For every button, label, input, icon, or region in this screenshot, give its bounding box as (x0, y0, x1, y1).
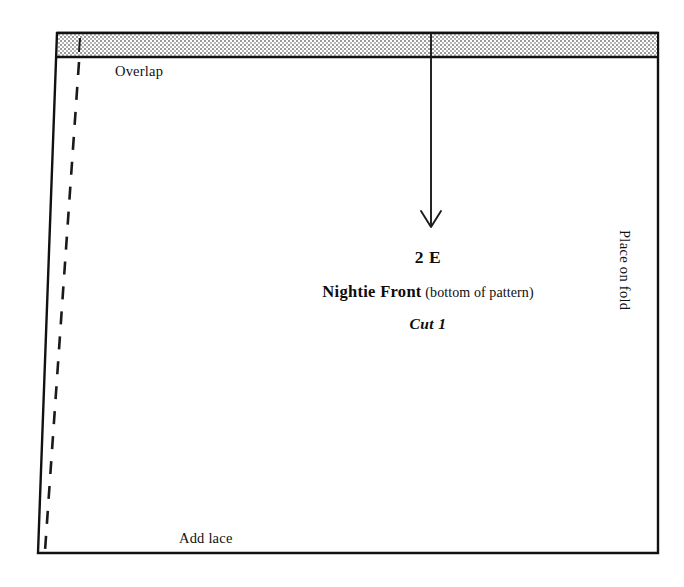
pattern-piece-title-note: (bottom of pattern) (422, 285, 534, 300)
pattern-piece-number: 2 E (178, 247, 678, 268)
pattern-cut-count: Cut 1 (178, 315, 678, 333)
label-overlap: Overlap (115, 64, 163, 79)
pattern-piece-title: Nightie Front (322, 282, 421, 301)
pattern-piece-title-line: Nightie Front (bottom of pattern) (178, 282, 678, 302)
overlap-allowance-band (58, 34, 657, 56)
label-add-lace: Add lace (179, 531, 233, 546)
pattern-sheet: Overlap Add lace Place on fold 2 E Night… (0, 0, 684, 587)
band-tick-mark (79, 38, 80, 52)
pattern-identification-block: 2 E Nightie Front (bottom of pattern) Cu… (178, 247, 678, 333)
